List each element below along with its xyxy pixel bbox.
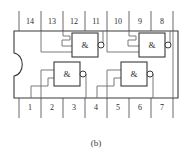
ic-pinout-figure: & & & & 14 1 [0,0,192,158]
inversion-bubble-icon [147,71,153,77]
pin-labels-bottom: 1 2 3 4 5 6 7 [28,103,164,112]
pin-label-13: 13 [48,17,56,26]
pin-label-9: 9 [138,17,142,26]
pin-label-14: 14 [26,17,34,26]
figure-caption: (b) [91,138,102,148]
inversion-bubble-icon [98,42,104,48]
gate-top-left: & [72,33,104,57]
pin-label-1: 1 [28,103,32,112]
gate-bottom-left: & [54,62,86,86]
pin-label-12: 12 [70,17,78,26]
gate-symbol-label: & [63,69,70,79]
gate-top-right: & [139,33,171,57]
pin-label-11: 11 [92,17,100,26]
pin-label-2: 2 [50,103,54,112]
pin-label-10: 10 [114,17,122,26]
pin-label-4: 4 [94,103,98,112]
pin-label-5: 5 [116,103,120,112]
inversion-bubble-icon [165,42,171,48]
gate-bottom-right: & [121,62,153,86]
gate-symbol-label: & [130,69,137,79]
gate-symbol-label: & [148,40,155,50]
pin-label-8: 8 [160,17,164,26]
inversion-bubble-icon [80,71,86,77]
pin-label-6: 6 [138,103,142,112]
pin-labels-top: 14 13 12 11 10 9 8 [26,17,164,26]
pin-label-7: 7 [160,103,164,112]
gate-symbol-label: & [81,40,88,50]
ic-diagram-svg: & & & & 14 1 [0,0,192,158]
pin-label-3: 3 [72,103,76,112]
